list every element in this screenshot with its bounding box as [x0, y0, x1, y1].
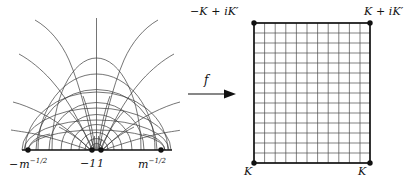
corner-dot-top-left	[251, 20, 256, 25]
conformal-map-figure	[0, 0, 417, 188]
label-pos-m-exponent: −1/2	[149, 157, 167, 165]
label-corner-top-right: K + iK′	[364, 6, 403, 17]
branch-point-one	[98, 147, 103, 152]
label-neg-m-inv-sqrt: −m−1/2	[8, 158, 47, 170]
branch-point-neg-one	[89, 147, 94, 152]
corner-dot-bottom-right	[367, 160, 372, 165]
label-neg-m-base: m	[19, 158, 30, 171]
label-corner-bottom-left: K	[244, 166, 252, 177]
label-corner-bottom-right: K	[358, 166, 366, 177]
label-pos-m-base: m	[138, 158, 149, 171]
branch-point-pos-m	[158, 147, 163, 152]
corner-dot-bottom-left	[251, 160, 256, 165]
label-neg-m-exponent: −1/2	[30, 157, 48, 165]
branch-point-neg-m	[25, 147, 30, 152]
label-pos-m-inv-sqrt: m−1/2	[136, 158, 166, 170]
label-map-f: f	[204, 74, 209, 86]
label-one: 1	[97, 158, 104, 169]
label-neg-m-sign: −	[8, 158, 19, 171]
corner-dot-top-right	[367, 20, 372, 25]
label-corner-top-left: −K + iK′	[190, 6, 239, 17]
label-neg-one: −1	[80, 158, 96, 169]
